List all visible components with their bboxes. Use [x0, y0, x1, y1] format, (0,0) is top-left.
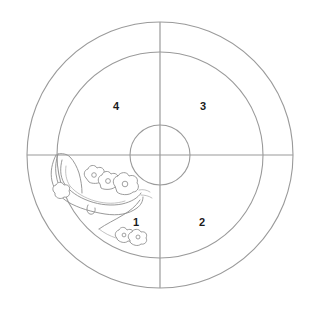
blossom-3	[113, 173, 138, 195]
quadrant-label-2: 2	[199, 217, 205, 228]
blossom-cluster-main	[84, 165, 138, 194]
quadrant-label-4: 4	[113, 101, 119, 112]
crescent-tail-tip	[99, 229, 116, 238]
target-diagram: 4 3 1 2	[0, 0, 318, 327]
sketch-speckle-a	[139, 190, 150, 192]
quadrant-label-1: 1	[133, 217, 139, 228]
quadrant-label-3: 3	[200, 101, 206, 112]
crescent-keel-nub	[87, 205, 95, 214]
sketch-crescent-boat	[51, 154, 152, 246]
target-graphic	[0, 0, 318, 327]
blossom-cluster-lower	[115, 227, 146, 245]
blossom-4	[53, 182, 70, 198]
blossom-cluster-left	[53, 182, 70, 198]
